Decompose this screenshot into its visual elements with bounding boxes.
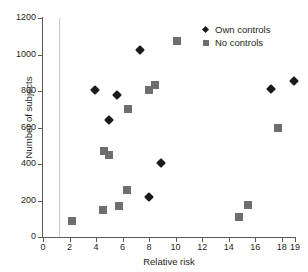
- y-tick-mark: [38, 18, 42, 19]
- legend-item-own-controls[interactable]: Own controls: [199, 23, 305, 36]
- data-point-own-controls: [144, 192, 154, 202]
- x-tick-label: 4: [84, 243, 108, 252]
- legend-item-label: No controls: [212, 37, 263, 48]
- y-tick-mark: [38, 55, 42, 56]
- data-point-no-controls: [115, 202, 123, 210]
- x-tick-label: 16: [243, 243, 267, 252]
- x-tick-label: 8: [137, 243, 161, 252]
- y-tick-mark: [38, 128, 42, 129]
- y-tick-mark: [38, 91, 42, 92]
- data-point-no-controls: [99, 206, 107, 214]
- diamond-marker-icon: [199, 27, 212, 32]
- data-point-no-controls: [274, 124, 282, 132]
- x-tick-label: 6: [111, 243, 135, 252]
- y-tick-label: 1200: [0, 13, 36, 22]
- data-point-no-controls: [151, 81, 159, 89]
- x-tick-label: 0: [31, 243, 55, 252]
- data-point-own-controls: [289, 76, 299, 86]
- x-tick-label: 12: [190, 243, 214, 252]
- legend-item-label: Own controls: [212, 24, 270, 35]
- x-axis-title: Relative risk: [43, 256, 295, 267]
- y-tick-mark: [38, 237, 42, 238]
- data-point-own-controls: [112, 90, 122, 100]
- data-point-no-controls: [123, 186, 131, 194]
- data-point-no-controls: [173, 37, 181, 45]
- x-tick-label: 19: [283, 243, 307, 252]
- data-point-no-controls: [124, 105, 132, 113]
- x-tick-label: 14: [217, 243, 241, 252]
- x-tick-label: 10: [164, 243, 188, 252]
- legend-item-no-controls[interactable]: No controls: [199, 36, 305, 49]
- y-tick-mark: [38, 164, 42, 165]
- data-point-own-controls: [90, 85, 100, 95]
- data-point-no-controls: [244, 201, 252, 209]
- chart-legend: Own controlsNo controls: [199, 23, 305, 49]
- data-point-no-controls: [235, 213, 243, 221]
- y-axis-title: Number of subjects: [23, 38, 34, 198]
- scatter-plot-figure: 020040060080010001200 02468101214161819 …: [0, 0, 308, 272]
- y-tick-label: 0: [0, 232, 36, 241]
- square-marker-icon: [199, 40, 212, 46]
- data-point-own-controls: [104, 115, 114, 125]
- x-axis-line: [42, 237, 296, 238]
- data-point-own-controls: [156, 158, 166, 168]
- y-tick-mark: [38, 201, 42, 202]
- data-point-own-controls: [266, 84, 276, 94]
- data-point-no-controls: [68, 217, 76, 225]
- x-tick-label: 2: [58, 243, 82, 252]
- data-point-own-controls: [135, 45, 145, 55]
- data-point-no-controls: [105, 151, 113, 159]
- plot-area: [43, 18, 295, 237]
